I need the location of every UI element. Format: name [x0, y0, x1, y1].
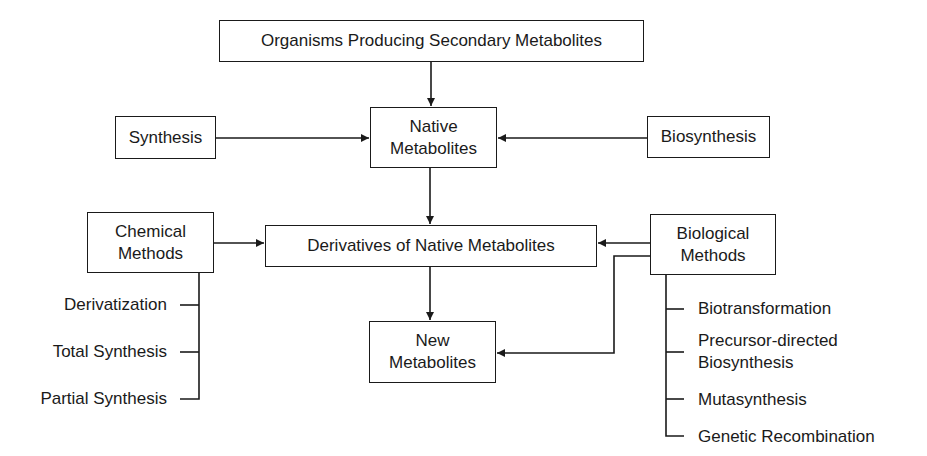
biological-method-genetic-recombination: Genetic Recombination — [698, 426, 875, 447]
biological-method-biotransformation: Biotransformation — [698, 298, 831, 319]
edge-biological-new — [497, 256, 650, 353]
node-biological-line2: Methods — [677, 245, 750, 267]
node-synthesis: Synthesis — [115, 116, 216, 159]
node-chemical-methods: Chemical Methods — [87, 212, 214, 273]
node-derivatives: Derivatives of Native Metabolites — [265, 225, 597, 267]
node-chemical-line2: Methods — [115, 243, 186, 265]
node-derivatives-label: Derivatives of Native Metabolites — [307, 235, 555, 257]
node-biological-methods: Biological Methods — [650, 214, 776, 275]
node-new-metabolites: New Metabolites — [369, 321, 496, 383]
node-synthesis-label: Synthesis — [129, 127, 203, 149]
node-biological-line1: Biological — [677, 223, 750, 245]
biological-methods-bracket — [666, 275, 684, 436]
node-chemical-line1: Chemical — [115, 221, 186, 243]
node-new-line1: New — [389, 330, 476, 352]
biological-method-precursor-line1: Precursor-directed — [698, 330, 838, 351]
node-organisms: Organisms Producing Secondary Metabolite… — [219, 20, 644, 62]
chemical-method-total-synthesis: Total Synthesis — [53, 341, 167, 362]
node-native-metabolites: Native Metabolites — [370, 107, 497, 168]
chemical-method-derivatization: Derivatization — [64, 294, 167, 315]
node-new-line2: Metabolites — [389, 352, 476, 374]
node-native-line2: Metabolites — [390, 138, 477, 160]
biological-method-mutasynthesis: Mutasynthesis — [698, 389, 807, 410]
biological-method-precursor-line2: Biosynthesis — [698, 352, 793, 373]
chemical-method-partial-synthesis: Partial Synthesis — [40, 388, 167, 409]
chemical-methods-bracket — [180, 273, 199, 399]
node-native-line1: Native — [390, 116, 477, 138]
node-organisms-label: Organisms Producing Secondary Metabolite… — [261, 30, 602, 52]
node-biosynthesis-label: Biosynthesis — [661, 126, 756, 148]
node-biosynthesis: Biosynthesis — [647, 116, 770, 158]
